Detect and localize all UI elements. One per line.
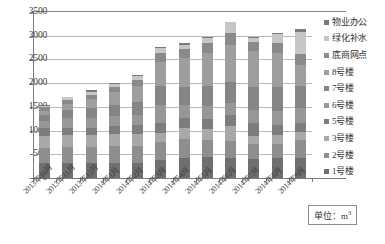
legend-item-label: 2号楼 — [332, 151, 354, 160]
bar-segment-5号楼 — [248, 123, 259, 136]
bar-segment-3号楼 — [295, 132, 306, 140]
bar-segment-2号楼 — [39, 148, 50, 163]
bar-2014年8月 — [272, 33, 283, 178]
legend-swatch-icon — [324, 70, 329, 75]
plot-area — [33, 12, 312, 178]
bar-segment-7号楼 — [295, 86, 306, 109]
legend-item-label: 1号楼 — [332, 167, 354, 176]
legend-item-label: 5号楼 — [332, 117, 354, 126]
bar-segment-6号楼 — [39, 121, 50, 128]
bar-segment-7号楼 — [109, 105, 120, 116]
bar-segment-3号楼 — [62, 135, 73, 147]
legend-item-label: 3号楼 — [332, 134, 354, 143]
bar-segment-绿化补水 — [295, 32, 306, 53]
bar-segment-5号楼 — [62, 128, 73, 135]
bar-segment-6号楼 — [202, 106, 213, 118]
bar-segment-8号楼 — [86, 99, 97, 108]
bar-segment-5号楼 — [132, 125, 143, 133]
bar-segment-6号楼 — [132, 115, 143, 125]
bar-segment-2号楼 — [225, 141, 236, 157]
legend-item-5号楼[interactable]: 5号楼 — [324, 114, 385, 131]
legend-item-1号楼[interactable]: 1号楼 — [324, 163, 385, 180]
bar-segment-底商网点 — [155, 53, 166, 62]
bar-segment-3号楼 — [86, 135, 97, 147]
bar-segment-2号楼 — [62, 147, 73, 163]
legend-item-7号楼[interactable]: 7号楼 — [324, 80, 385, 97]
legend-swatch-icon — [324, 169, 329, 174]
bar-segment-3号楼 — [179, 128, 190, 139]
legend-swatch-icon — [324, 153, 329, 158]
bar-segment-8号楼 — [272, 53, 283, 86]
unit-annotation: 单位：m3 — [308, 205, 357, 225]
bar-segment-5号楼 — [202, 119, 213, 130]
legend-swatch-icon — [324, 119, 329, 124]
bar-segment-8号楼 — [109, 92, 120, 105]
bar-segment-5号楼 — [295, 123, 306, 132]
legend-item-3号楼[interactable]: 3号楼 — [324, 130, 385, 147]
bar-2014年1月 — [109, 83, 120, 178]
bar-segment-6号楼 — [272, 111, 283, 125]
legend-item-物业办公[interactable]: 物业办公 — [324, 14, 385, 31]
legend-item-2号楼[interactable]: 2号楼 — [324, 147, 385, 164]
bar-segment-3号楼 — [39, 136, 50, 148]
unit-exponent: 3 — [348, 209, 351, 216]
bar-segment-底商网点 — [295, 54, 306, 65]
chart-legend: 物业办公绿化补水底商网点8号楼7号楼6号楼5号楼3号楼2号楼1号楼 — [324, 14, 385, 180]
bar-2014年9月 — [295, 29, 306, 178]
bar-segment-3号楼 — [109, 134, 120, 147]
legend-item-label: 底商网点 — [332, 51, 367, 60]
bar-segment-3号楼 — [155, 133, 166, 142]
bar-segment-8号楼 — [155, 62, 166, 86]
bar-segment-3号楼 — [248, 136, 259, 145]
bar-segment-底商网点 — [202, 43, 213, 53]
legend-item-8号楼[interactable]: 8号楼 — [324, 64, 385, 81]
bar-segment-7号楼 — [179, 87, 190, 105]
legend-item-label: 绿化补水 — [332, 34, 367, 43]
bar-segment-3号楼 — [202, 129, 213, 139]
bar-segment-5号楼 — [39, 128, 50, 136]
bar-segment-8号楼 — [132, 86, 143, 103]
bar-segment-7号楼 — [132, 102, 143, 115]
bar-segment-2号楼 — [132, 146, 143, 163]
bar-segment-2号楼 — [295, 140, 306, 158]
bar-2014年5月 — [202, 37, 213, 178]
legend-item-label: 6号楼 — [332, 101, 354, 110]
bar-segment-6号楼 — [109, 116, 120, 125]
bar-segment-5号楼 — [155, 123, 166, 133]
bar-segment-5号楼 — [86, 128, 97, 135]
bar-segment-8号楼 — [295, 65, 306, 85]
legend-item-6号楼[interactable]: 6号楼 — [324, 97, 385, 114]
bar-2014年7月 — [248, 37, 259, 178]
bar-segment-3号楼 — [272, 135, 283, 144]
bar-segment-2号楼 — [202, 140, 213, 158]
legend-item-绿化补水[interactable]: 绿化补水 — [324, 31, 385, 48]
bar-segment-7号楼 — [155, 86, 166, 105]
bar-segment-底商网点 — [179, 49, 190, 58]
bar-segment-8号楼 — [225, 45, 236, 82]
bar-segment-3号楼 — [225, 126, 236, 142]
bar-segment-绿化补水 — [272, 34, 283, 43]
bar-segment-6号楼 — [179, 105, 190, 117]
bar-2014年4月 — [179, 43, 190, 178]
bar-2014年3月 — [155, 47, 166, 178]
bar-segment-底商网点 — [225, 33, 236, 45]
unit-text: 单位：m — [314, 211, 348, 221]
bar-segment-5号楼 — [179, 118, 190, 128]
legend-item-底商网点[interactable]: 底商网点 — [324, 47, 385, 64]
bar-segment-2号楼 — [86, 147, 97, 163]
legend-swatch-icon — [324, 53, 329, 58]
bar-segment-7号楼 — [248, 87, 259, 109]
legend-swatch-icon — [324, 36, 329, 41]
stacked-bar-chart: 0500100015002000250030003500 2013年10月201… — [0, 0, 385, 244]
bar-segment-7号楼 — [62, 110, 73, 118]
bar-2014年2月 — [132, 75, 143, 178]
legend-swatch-icon — [324, 103, 329, 108]
bar-2014年6月 — [225, 22, 236, 178]
legend-item-label: 7号楼 — [332, 84, 354, 93]
bar-segment-2号楼 — [272, 144, 283, 158]
legend-swatch-icon — [324, 86, 329, 91]
bar-segment-6号楼 — [225, 103, 236, 115]
bar-segment-2号楼 — [109, 146, 120, 163]
bar-segment-7号楼 — [225, 82, 236, 103]
x-tick-mark — [312, 178, 313, 182]
